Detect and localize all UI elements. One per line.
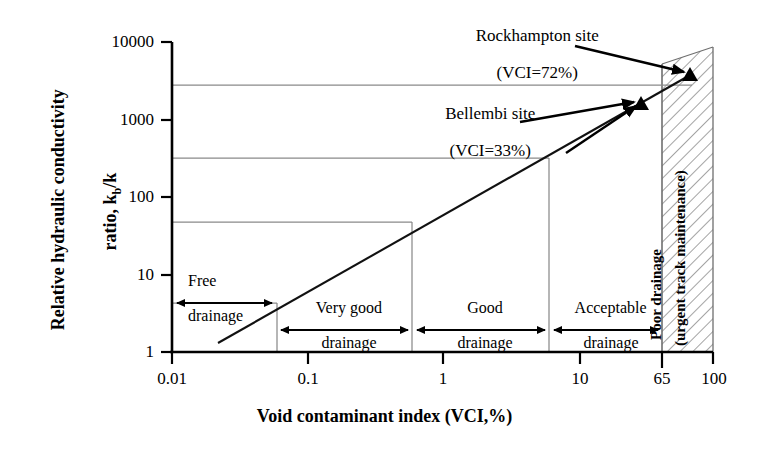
region-label-very-good-drainage: Very good drainage bbox=[283, 282, 407, 351]
region-label-acceptable-drainage: Acceptable drainage bbox=[551, 282, 663, 351]
y-tick-1: 1 bbox=[58, 342, 154, 361]
callout-bellembi-line1: Bellembi site bbox=[445, 104, 535, 123]
very-good-drainage-line1: Very good bbox=[316, 299, 382, 316]
region-label-good-drainage: Good drainage bbox=[419, 282, 543, 351]
callout-rockhampton-line2: (VCI=72%) bbox=[497, 63, 578, 82]
acceptable-drainage-line1: Acceptable bbox=[575, 299, 647, 316]
y-tick-10: 10 bbox=[58, 265, 154, 284]
region-label-urgent-track-maintenance: (urgent track maintenance) bbox=[672, 170, 689, 346]
y-axis-ticks bbox=[161, 42, 172, 352]
marker-bellembi bbox=[633, 96, 649, 110]
callout-bellembi-line2: (VCI=33%) bbox=[450, 141, 531, 160]
x-tick-1: 1 bbox=[403, 369, 483, 388]
x-tick-65: 65 bbox=[634, 369, 690, 388]
x-tick-0.1: 0.1 bbox=[268, 369, 348, 388]
good-drainage-line2: drainage bbox=[457, 334, 512, 351]
good-drainage-line1: Good bbox=[467, 299, 503, 316]
callout-rockhampton-line1: Rockhampton site bbox=[476, 26, 599, 45]
y-tick-10000: 10000 bbox=[58, 32, 154, 51]
callout-bellembi: Bellembi site (VCI=33%) bbox=[398, 86, 574, 161]
x-tick-100: 100 bbox=[684, 369, 744, 388]
x-tick-0.01: 0.01 bbox=[132, 369, 212, 388]
region-label-poor-drainage: Poor drainage bbox=[648, 249, 665, 340]
acceptable-drainage-line2: drainage bbox=[583, 334, 638, 351]
x-axis-title: Void contaminant index (VCI,%) bbox=[0, 406, 769, 426]
callout-rockhampton: Rockhampton site (VCI=72%) bbox=[438, 8, 628, 83]
free-drainage-line1: Free bbox=[188, 272, 216, 289]
y-tick-1000: 1000 bbox=[58, 110, 154, 129]
x-tick-10: 10 bbox=[540, 369, 620, 388]
y-tick-100: 100 bbox=[58, 187, 154, 206]
y-axis-title-line2-post: /k bbox=[100, 173, 120, 188]
region-label-free-drainage: Free drainage bbox=[180, 255, 280, 324]
free-drainage-line2: drainage bbox=[188, 307, 243, 324]
very-good-drainage-line2: drainage bbox=[321, 334, 376, 351]
x-axis-ticks bbox=[172, 352, 713, 368]
